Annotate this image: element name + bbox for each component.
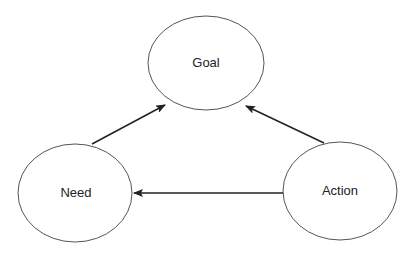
node-action: Action <box>283 142 397 240</box>
edge-need-to-goal-arrow <box>92 105 165 144</box>
diagram-canvas: Goal Need Action <box>0 0 413 258</box>
action-label: Action <box>322 183 358 198</box>
need-label: Need <box>60 185 91 200</box>
goal-label: Goal <box>192 55 220 70</box>
node-need: Need <box>18 144 132 242</box>
edge-action-to-goal-arrow <box>246 106 324 143</box>
node-goal: Goal <box>148 16 264 110</box>
